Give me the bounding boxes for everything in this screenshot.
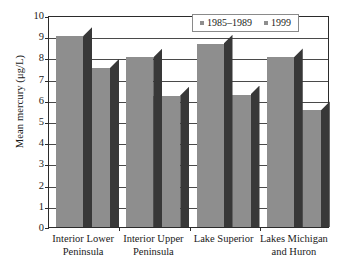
- y-tick-3: 3: [22, 159, 44, 170]
- x-label-line-2: and Huron: [255, 246, 333, 259]
- y-tickmark: [45, 228, 49, 229]
- bar-side-panel: [251, 86, 260, 228]
- bar-1985-1989-1: [56, 36, 83, 227]
- x-label-line-2: Peninsula: [114, 246, 192, 259]
- x-label-line-2: Peninsula: [44, 246, 122, 259]
- bar-face: [267, 57, 294, 227]
- bar-group: [126, 17, 189, 227]
- plot-area: [48, 16, 329, 228]
- bar-group: [267, 17, 330, 227]
- bar-side-panel: [153, 48, 162, 227]
- bar-side-panel: [83, 27, 92, 227]
- bar-series-container: [49, 17, 328, 227]
- x-label-2: Interior UpperPeninsula: [114, 233, 192, 258]
- y-tick-1: 1: [22, 202, 44, 213]
- y-tick-9: 9: [22, 32, 44, 43]
- bar-group: [56, 17, 119, 227]
- x-label-line-1: Interior Upper: [123, 233, 183, 244]
- bar-face: [197, 44, 224, 227]
- bar-side-panel: [321, 101, 330, 227]
- x-axis-category-labels: Interior LowerPeninsulaInterior UpperPen…: [48, 233, 329, 273]
- legend-label: 1999: [271, 17, 291, 28]
- bar-group: [197, 17, 260, 227]
- y-tick-10: 10: [22, 11, 44, 22]
- y-axis-tick-labels: 109876543210: [22, 16, 44, 228]
- y-tick-2: 2: [22, 180, 44, 191]
- bar-1985-1989-2: [126, 57, 153, 227]
- legend: 1985–19891999: [192, 14, 299, 32]
- y-tick-8: 8: [22, 53, 44, 64]
- y-tick-0: 0: [22, 223, 44, 234]
- bar-1985-1989-4: [267, 57, 294, 227]
- bar-side-panel: [224, 35, 233, 227]
- x-tickmark: [260, 227, 261, 231]
- bar-face: [56, 36, 83, 227]
- legend-swatch-icon: [264, 21, 268, 25]
- y-tick-7: 7: [22, 74, 44, 85]
- x-label-3: Lake Superior: [185, 233, 263, 246]
- x-label-line-1: Lakes Michigan: [260, 233, 328, 244]
- x-label-line-1: Interior Lower: [52, 233, 114, 244]
- y-tick-6: 6: [22, 96, 44, 107]
- mercury-bar-chart: Mean mercury (μg/L) 109876543210 1985–19…: [0, 0, 352, 275]
- y-tick-4: 4: [22, 138, 44, 149]
- legend-label: 1985–1989: [207, 17, 252, 28]
- legend-item-2: 1999: [264, 17, 291, 28]
- x-tickmark: [119, 227, 120, 231]
- bar-face: [126, 57, 153, 227]
- bar-side-panel: [110, 59, 119, 227]
- legend-item-1: 1985–1989: [200, 17, 252, 28]
- bar-side-panel: [180, 87, 189, 227]
- x-label-line-1: Lake Superior: [194, 233, 254, 244]
- legend-swatch-icon: [200, 21, 204, 25]
- bar-1985-1989-3: [197, 44, 224, 227]
- bar-side-panel: [294, 48, 303, 227]
- y-tick-5: 5: [22, 117, 44, 128]
- x-label-4: Lakes Michiganand Huron: [255, 233, 333, 258]
- x-tickmark: [190, 227, 191, 231]
- x-label-1: Interior LowerPeninsula: [44, 233, 122, 258]
